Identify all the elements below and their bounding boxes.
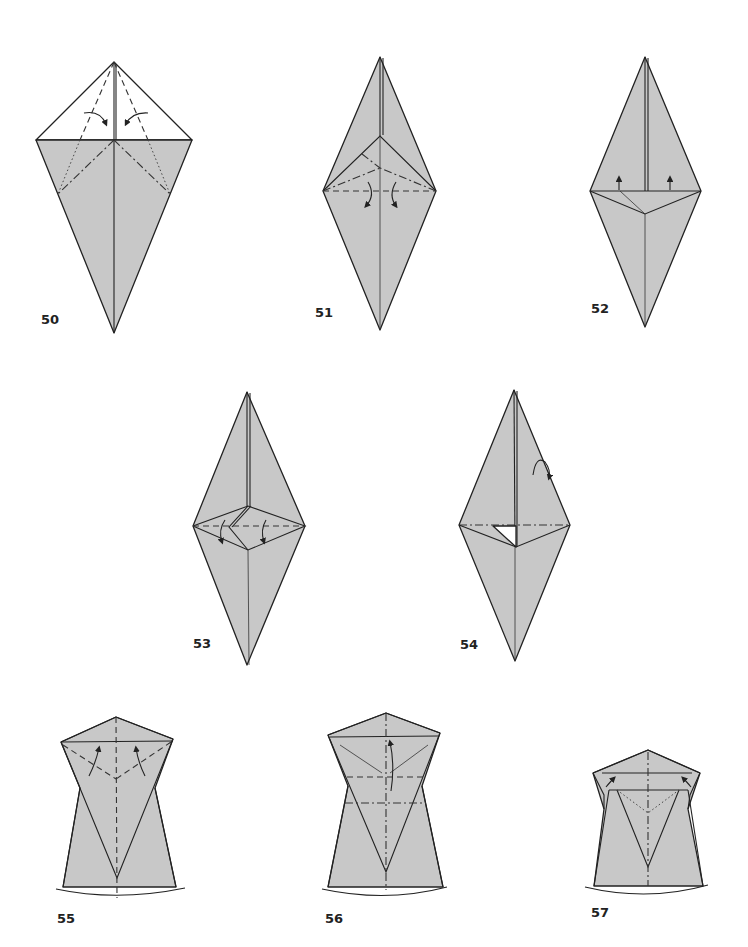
step-53-diagram xyxy=(193,392,305,665)
step-56-diagram xyxy=(322,713,447,896)
step-number-label: 52 xyxy=(591,301,609,316)
step-54-diagram xyxy=(459,390,570,661)
step-number-label: 54 xyxy=(460,637,478,652)
step-51-diagram xyxy=(323,57,436,330)
step-number-label: 50 xyxy=(41,312,59,327)
step-number-label: 53 xyxy=(193,636,211,651)
step-50-diagram xyxy=(36,62,192,333)
step-number-label: 57 xyxy=(591,905,609,920)
step-number-label: 56 xyxy=(325,911,343,926)
step-55-diagram xyxy=(56,717,185,898)
origami-diagram-canvas xyxy=(0,0,748,947)
step-57-diagram xyxy=(585,750,708,894)
step-52-diagram xyxy=(590,57,701,327)
step-number-label: 51 xyxy=(315,305,333,320)
step-number-label: 55 xyxy=(57,911,75,926)
